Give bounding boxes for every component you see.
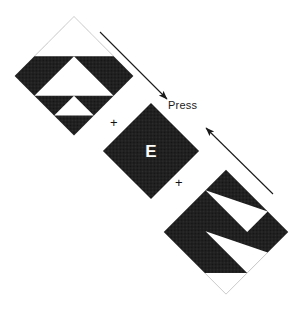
fixation-cross-lower: + bbox=[175, 176, 183, 189]
figure-canvas: E Press + + bbox=[0, 0, 302, 310]
stimulus-diagram: E bbox=[0, 0, 302, 310]
press-label: Press bbox=[168, 99, 197, 111]
fixation-cross-upper: + bbox=[110, 116, 118, 129]
target-letter-E: E bbox=[145, 142, 156, 161]
